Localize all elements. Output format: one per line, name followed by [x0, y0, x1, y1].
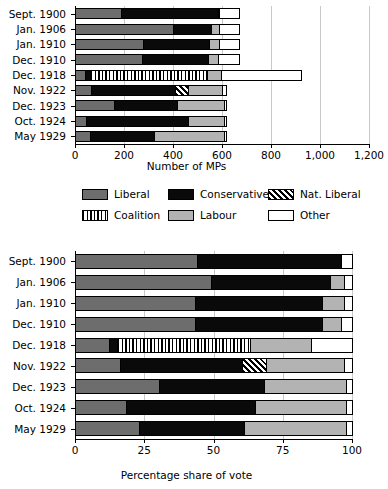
- table-row: [75, 116, 227, 127]
- bar-segment-liberal: [76, 71, 85, 80]
- bar-segment-other: [341, 255, 352, 268]
- bar-segment-labour: [264, 380, 347, 393]
- legend-swatch-labour: [168, 210, 194, 221]
- bar-segment-conservative: [211, 276, 330, 289]
- chart-percentage-share-of-vote: Sept. 1900Jan. 1906Jan. 1910Dec. 1910Dec…: [0, 245, 373, 489]
- bar-segment-other: [344, 276, 352, 289]
- x-tick: [222, 144, 223, 148]
- x-tick: [271, 144, 272, 148]
- bar-segment-liberal: [76, 339, 109, 352]
- bar-segment-liberal: [76, 25, 173, 34]
- bar-segment-labour: [177, 101, 223, 110]
- bar-segment-coalition: [90, 71, 207, 80]
- category-label: Jan. 1906: [16, 24, 66, 35]
- bar-segment-other: [224, 117, 225, 126]
- bar-segment-liberal: [76, 380, 159, 393]
- x-tick-label: 25: [119, 445, 169, 456]
- table-row: [75, 275, 353, 290]
- bar-segment-liberal: [76, 9, 121, 18]
- bar-segment-conservative: [195, 318, 322, 331]
- bar-segment-natliberal: [175, 86, 188, 95]
- bar-segment-other: [219, 9, 239, 18]
- category-label: Jan. 1906: [16, 277, 66, 288]
- bar-segment-other: [346, 380, 352, 393]
- category-label: Nov. 1922: [13, 85, 66, 96]
- bar-segment-labour: [322, 297, 344, 310]
- bar-segment-liberal: [76, 276, 211, 289]
- category-label: Sept. 1900: [9, 9, 66, 20]
- bar-segment-labour: [188, 117, 225, 126]
- gridline: [369, 6, 370, 144]
- bar-segment-conservative: [91, 86, 175, 95]
- bar-segment-liberal: [76, 255, 197, 268]
- category-label: Dec. 1910: [12, 55, 66, 66]
- bar-segment-conservative: [121, 9, 219, 18]
- legend-label: Other: [300, 209, 330, 221]
- bar-segment-liberal: [76, 359, 120, 372]
- bar-segment-liberal: [76, 297, 195, 310]
- chart-legend: LiberalConservativeNat. LiberalCoalition…: [0, 188, 373, 234]
- bar-segment-other: [218, 55, 239, 64]
- legend-item-liberal: Liberal: [82, 188, 150, 200]
- bar-segment-natliberal: [242, 359, 267, 372]
- bar-segment-other: [224, 101, 226, 110]
- category-label: Sept. 1900: [9, 256, 66, 267]
- x-tick: [352, 439, 353, 443]
- category-label: Dec. 1923: [12, 101, 66, 112]
- category-label: Jan. 1910: [16, 39, 66, 50]
- bar-segment-other: [219, 25, 239, 34]
- x-tick: [173, 144, 174, 148]
- legend-label: Liberal: [114, 188, 150, 200]
- x-tick: [124, 144, 125, 148]
- bar-segment-labour: [322, 318, 341, 331]
- bar-segment-other: [344, 297, 352, 310]
- table-row: [75, 100, 227, 111]
- legend-item-natliberal: Nat. Liberal: [268, 188, 361, 200]
- bar-segment-labour: [244, 422, 346, 435]
- x-tick: [214, 439, 215, 443]
- legend-item-other: Other: [268, 209, 330, 221]
- table-row: [75, 8, 240, 19]
- table-row: [75, 338, 353, 353]
- x-tick: [369, 144, 370, 148]
- x-tick-label: 75: [258, 445, 308, 456]
- bar-segment-conservative: [143, 40, 209, 49]
- table-row: [75, 254, 353, 269]
- table-row: [75, 70, 302, 81]
- category-label: May 1929: [14, 131, 66, 142]
- x-tick-label: 50: [189, 445, 239, 456]
- bar-segment-liberal: [76, 132, 90, 141]
- bar-segment-liberal: [76, 40, 143, 49]
- category-label: May 1929: [14, 424, 66, 435]
- bar-segment-conservative: [142, 55, 208, 64]
- bar-segment-labour: [188, 86, 223, 95]
- bar-segment-liberal: [76, 401, 126, 414]
- bar-segment-labour: [209, 40, 219, 49]
- category-label: Jan. 1910: [16, 298, 66, 309]
- bar-segment-liberal: [76, 86, 91, 95]
- bar-segment-liberal: [76, 422, 139, 435]
- category-label: Dec. 1923: [12, 382, 66, 393]
- category-label: Oct. 1924: [14, 116, 66, 127]
- table-row: [75, 400, 353, 415]
- table-row: [75, 317, 353, 332]
- bar-segment-liberal: [76, 101, 114, 110]
- bar-segment-conservative: [86, 117, 188, 126]
- category-label: Dec. 1910: [12, 319, 66, 330]
- bar-segment-labour: [266, 359, 343, 372]
- bar-segment-other: [219, 40, 239, 49]
- bar-segment-conservative: [173, 25, 211, 34]
- bar-segment-conservative: [114, 101, 177, 110]
- legend-label: Nat. Liberal: [300, 188, 361, 200]
- legend-item-labour: Labour: [168, 209, 236, 221]
- x-tick: [75, 144, 76, 148]
- bar-segment-labour: [330, 276, 344, 289]
- legend-swatch-conservative: [168, 189, 194, 200]
- bar-segment-conservative: [120, 359, 241, 372]
- x-tick: [320, 144, 321, 148]
- x-tick: [75, 439, 76, 443]
- bar-segment-liberal: [76, 117, 86, 126]
- votes-x-axis-title: Percentage share of vote: [0, 469, 373, 481]
- x-tick-label: 100: [327, 445, 377, 456]
- bar-segment-other: [346, 422, 352, 435]
